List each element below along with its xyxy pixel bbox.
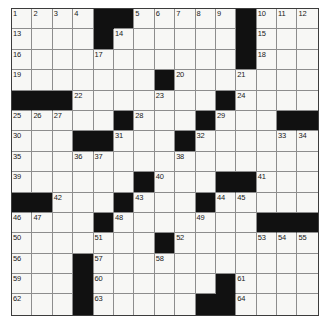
letter-cell[interactable]: 12 xyxy=(297,9,317,29)
letter-cell[interactable]: 64 xyxy=(236,294,256,314)
letter-cell[interactable]: 25 xyxy=(12,111,32,131)
letter-cell[interactable]: 28 xyxy=(134,111,154,131)
letter-cell[interactable] xyxy=(155,193,175,213)
letter-cell[interactable] xyxy=(297,172,317,192)
letter-cell[interactable]: 61 xyxy=(236,274,256,294)
letter-cell[interactable]: 60 xyxy=(94,274,114,294)
letter-cell[interactable]: 54 xyxy=(277,233,297,253)
letter-cell[interactable] xyxy=(297,254,317,274)
letter-cell[interactable]: 57 xyxy=(94,254,114,274)
letter-cell[interactable] xyxy=(114,91,134,111)
letter-cell[interactable]: 23 xyxy=(155,91,175,111)
letter-cell[interactable]: 13 xyxy=(12,29,32,49)
letter-cell[interactable] xyxy=(73,193,93,213)
letter-cell[interactable] xyxy=(216,152,236,172)
letter-cell[interactable] xyxy=(257,294,277,314)
letter-cell[interactable] xyxy=(53,131,73,151)
letter-cell[interactable] xyxy=(32,50,52,70)
letter-cell[interactable] xyxy=(175,294,195,314)
letter-cell[interactable] xyxy=(175,29,195,49)
letter-cell[interactable] xyxy=(175,111,195,131)
letter-cell[interactable] xyxy=(297,70,317,90)
letter-cell[interactable] xyxy=(175,50,195,70)
letter-cell[interactable] xyxy=(155,294,175,314)
letter-cell[interactable] xyxy=(32,172,52,192)
letter-cell[interactable] xyxy=(155,213,175,233)
letter-cell[interactable]: 30 xyxy=(12,131,32,151)
letter-cell[interactable]: 32 xyxy=(196,131,216,151)
letter-cell[interactable] xyxy=(277,70,297,90)
letter-cell[interactable]: 22 xyxy=(73,91,93,111)
letter-cell[interactable]: 46 xyxy=(12,213,32,233)
letter-cell[interactable] xyxy=(196,70,216,90)
letter-cell[interactable]: 37 xyxy=(94,152,114,172)
letter-cell[interactable] xyxy=(53,213,73,233)
letter-cell[interactable] xyxy=(155,152,175,172)
letter-cell[interactable] xyxy=(94,70,114,90)
letter-cell[interactable] xyxy=(277,29,297,49)
letter-cell[interactable] xyxy=(114,152,134,172)
letter-cell[interactable]: 38 xyxy=(175,152,195,172)
letter-cell[interactable]: 56 xyxy=(12,254,32,274)
letter-cell[interactable]: 34 xyxy=(297,131,317,151)
letter-cell[interactable] xyxy=(277,152,297,172)
letter-cell[interactable] xyxy=(32,274,52,294)
letter-cell[interactable] xyxy=(155,50,175,70)
letter-cell[interactable] xyxy=(257,193,277,213)
letter-cell[interactable]: 8 xyxy=(196,9,216,29)
letter-cell[interactable]: 52 xyxy=(175,233,195,253)
letter-cell[interactable] xyxy=(134,91,154,111)
letter-cell[interactable] xyxy=(32,131,52,151)
letter-cell[interactable] xyxy=(134,274,154,294)
letter-cell[interactable] xyxy=(257,111,277,131)
letter-cell[interactable] xyxy=(175,172,195,192)
letter-cell[interactable] xyxy=(114,70,134,90)
letter-cell[interactable]: 47 xyxy=(32,213,52,233)
letter-cell[interactable] xyxy=(114,274,134,294)
letter-cell[interactable]: 42 xyxy=(53,193,73,213)
letter-cell[interactable] xyxy=(216,254,236,274)
letter-cell[interactable] xyxy=(134,233,154,253)
letter-cell[interactable]: 48 xyxy=(114,213,134,233)
letter-cell[interactable]: 24 xyxy=(236,91,256,111)
letter-cell[interactable] xyxy=(53,152,73,172)
letter-cell[interactable]: 4 xyxy=(73,9,93,29)
letter-cell[interactable]: 3 xyxy=(53,9,73,29)
letter-cell[interactable] xyxy=(196,172,216,192)
letter-cell[interactable] xyxy=(277,50,297,70)
letter-cell[interactable] xyxy=(175,274,195,294)
letter-cell[interactable] xyxy=(257,131,277,151)
letter-cell[interactable] xyxy=(196,29,216,49)
letter-cell[interactable] xyxy=(175,213,195,233)
letter-cell[interactable] xyxy=(196,274,216,294)
letter-cell[interactable] xyxy=(134,29,154,49)
letter-cell[interactable] xyxy=(155,29,175,49)
letter-cell[interactable]: 14 xyxy=(114,29,134,49)
letter-cell[interactable]: 41 xyxy=(257,172,277,192)
letter-cell[interactable] xyxy=(257,152,277,172)
letter-cell[interactable] xyxy=(32,254,52,274)
letter-cell[interactable]: 1 xyxy=(12,9,32,29)
letter-cell[interactable]: 16 xyxy=(12,50,32,70)
letter-cell[interactable] xyxy=(297,29,317,49)
letter-cell[interactable] xyxy=(277,91,297,111)
letter-cell[interactable] xyxy=(32,294,52,314)
letter-cell[interactable]: 44 xyxy=(216,193,236,213)
letter-cell[interactable]: 50 xyxy=(12,233,32,253)
letter-cell[interactable] xyxy=(257,274,277,294)
letter-cell[interactable] xyxy=(257,254,277,274)
letter-cell[interactable] xyxy=(277,172,297,192)
letter-cell[interactable] xyxy=(277,274,297,294)
letter-cell[interactable] xyxy=(73,50,93,70)
letter-cell[interactable]: 6 xyxy=(155,9,175,29)
letter-cell[interactable]: 15 xyxy=(257,29,277,49)
letter-cell[interactable] xyxy=(297,294,317,314)
letter-cell[interactable] xyxy=(236,233,256,253)
letter-cell[interactable]: 26 xyxy=(32,111,52,131)
letter-cell[interactable]: 10 xyxy=(257,9,277,29)
letter-cell[interactable] xyxy=(155,131,175,151)
letter-cell[interactable] xyxy=(257,70,277,90)
letter-cell[interactable] xyxy=(134,70,154,90)
letter-cell[interactable] xyxy=(175,91,195,111)
letter-cell[interactable]: 31 xyxy=(114,131,134,151)
